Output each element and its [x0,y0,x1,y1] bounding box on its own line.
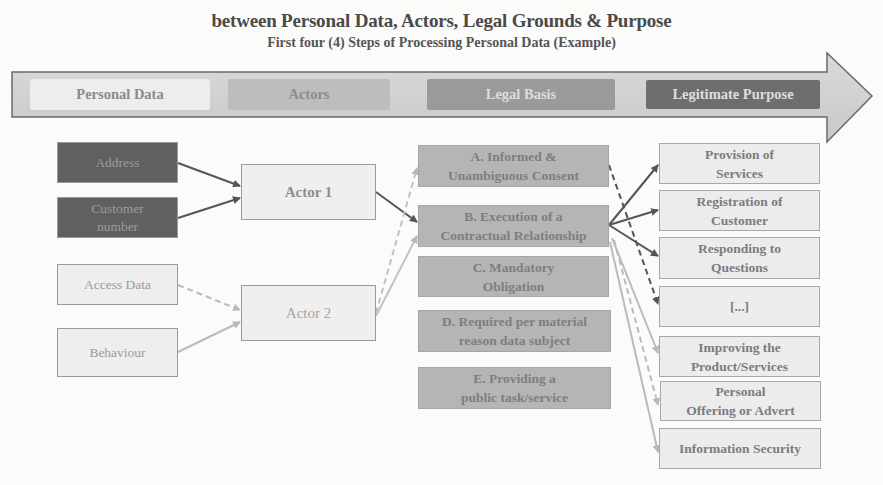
purpose-line2: Product/Services [691,357,788,376]
stage-label: Legitimate Purpose [672,86,793,103]
stage-legal-basis: Legal Basis [427,79,615,110]
purpose-line1: Responding to [698,239,781,258]
purpose-line2: Questions [711,258,768,277]
purpose-line2: Customer [711,211,768,230]
stage-personal-data: Personal Data [30,79,210,110]
stage-label: Actors [288,86,329,103]
legal-line1: A. Informed & [471,147,557,166]
data-customer-number: Customer number [57,197,178,238]
legal-basis-b: B. Execution of a Contractual Relationsh… [418,205,609,247]
purpose-registration-of-customer: Registration of Customer [659,190,820,231]
purpose-line1: [...] [730,297,749,316]
actor-2: Actor 2 [241,285,376,341]
legal-line2: Contractual Relationship [441,226,587,245]
stage-actors: Actors [228,79,390,110]
connector-customer-actor1 [178,198,240,218]
purpose-etc: [...] [659,286,820,327]
connector-behaviour-actor2 [178,322,240,352]
data-label: Access Data [84,276,151,294]
purpose-provision-of-services: Provision of Services [659,143,820,184]
data-behaviour: Behaviour [57,328,178,377]
purpose-line2: Offering or Advert [686,401,794,420]
purpose-improving-product-services: Improving the Product/Services [659,336,820,377]
legal-line1: C. Mandatory [473,258,555,277]
data-address: Address [57,142,178,183]
legal-basis-e: E. Providing a public task/service [418,367,611,409]
legal-line1: B. Execution of a [464,207,562,226]
purpose-line1: Personal [715,382,765,401]
stage-legitimate-purpose: Legitimate Purpose [646,80,820,109]
connector-actor1-b [376,192,417,222]
actor-label: Actor 2 [286,304,331,322]
data-access-data: Access Data [57,264,178,305]
connector-b-infosec [610,242,658,452]
purpose-personal-offering-or-advert: Personal Offering or Advert [660,381,821,421]
legal-line2: Obligation [483,277,545,296]
connector-a-etc [609,165,658,304]
stage-label: Legal Basis [486,86,557,103]
purpose-line1: Registration of [697,192,783,211]
legal-line1: E. Providing a [473,369,556,388]
actor-1: Actor 1 [241,164,376,220]
legal-basis-a: A. Informed & Unambiguous Consent [418,145,609,187]
purpose-responding-to-questions: Responding to Questions [659,237,820,279]
purpose-line1: Provision of [705,145,774,164]
connector-b-offering [614,240,658,405]
data-label: Customer number [78,200,157,236]
connector-b-provision [609,165,658,225]
connector-address-actor1 [178,163,240,186]
connector-actor2-a [376,168,417,313]
actor-label: Actor 1 [285,183,333,201]
connector-actor2-b [376,236,417,316]
stage-label: Personal Data [76,86,163,103]
purpose-information-security: Information Security [659,428,821,469]
purpose-line1: Information Security [679,439,801,458]
legal-basis-d: D. Required per material reason data sub… [418,310,611,352]
data-label: Address [95,154,139,172]
legal-basis-c: C. Mandatory Obligation [418,256,609,297]
data-label: Behaviour [89,344,145,362]
connector-access-actor2 [178,285,240,310]
legal-line2: Unambiguous Consent [448,166,579,185]
purpose-line2: Services [716,164,763,183]
purpose-line1: Improving the [698,338,781,357]
legal-line2: reason data subject [459,331,571,350]
legal-line1: D. Required per material [442,312,587,331]
legal-line2: public task/service [461,388,568,407]
